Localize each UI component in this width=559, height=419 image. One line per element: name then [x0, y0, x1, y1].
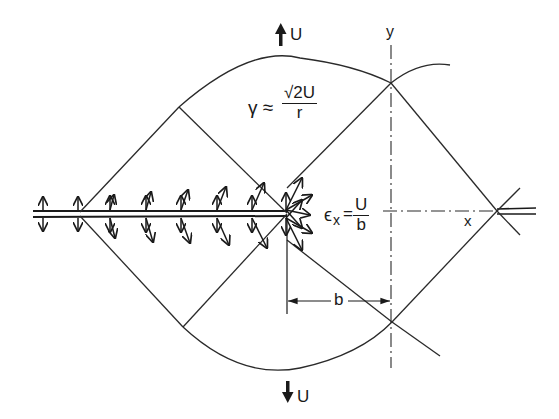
strain-rate-lhs: ϵ: [324, 206, 332, 224]
bottom-velocity-label: U: [297, 388, 309, 405]
diagram-canvas: [0, 0, 559, 419]
velocity-vectors: [43, 178, 312, 250]
crack-right: [497, 208, 536, 214]
shear-rate-numerator: √2U: [282, 84, 317, 104]
strain-rate-denominator: b: [356, 216, 365, 235]
arrow-up-icon: [275, 23, 287, 46]
shear-rate-lhs: γ ≈: [248, 98, 273, 117]
y-axis-label: y: [386, 24, 394, 40]
strain-rate-equals: =: [343, 205, 353, 222]
shear-rate-fraction: √2U r: [282, 84, 317, 123]
shear-rate-denominator: r: [297, 104, 303, 123]
strain-rate-subscript: x: [333, 213, 340, 227]
strain-rate-numerator: U: [353, 196, 369, 216]
arrow-down-icon: [282, 381, 294, 403]
dimension-b-label: b: [334, 291, 343, 308]
top-velocity-label: U: [290, 26, 302, 43]
strain-rate-fraction: U b: [353, 196, 369, 235]
crack-left: [33, 211, 287, 217]
slip-line-diagram: U U y x b γ ≈ √2U r ϵ x = U b: [0, 0, 559, 419]
x-axis-label: x: [464, 213, 472, 228]
